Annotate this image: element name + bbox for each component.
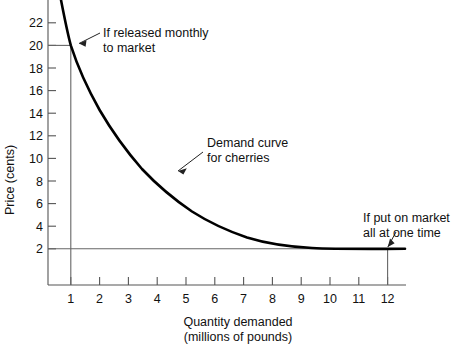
x-tick-label-5: 5	[183, 292, 190, 306]
y-tick-label-6: 6	[36, 197, 43, 211]
x-axis-title-line1: Quantity demanded	[183, 315, 292, 329]
y-axis-title: Price (cents)	[3, 145, 17, 215]
x-axis-title-line2: (millions of pounds)	[184, 330, 292, 344]
x-tick-label-4: 4	[154, 292, 161, 306]
y-tick-label-22: 22	[29, 16, 43, 30]
y-tick-label-4: 4	[36, 220, 43, 234]
x-tick-label-7: 7	[240, 292, 247, 306]
chart-svg: 22 20 18 16 14 12 10 8 6 4 2 Price (cent…	[0, 0, 458, 347]
x-tick-label-6: 6	[211, 292, 218, 306]
y-tick-label-16: 16	[29, 84, 43, 98]
x-tick-label-9: 9	[298, 292, 305, 306]
x-tick-label-10: 10	[323, 292, 337, 306]
x-tick-label-8: 8	[269, 292, 276, 306]
annotation-all-at-one-time-line1: If put on market	[363, 211, 450, 225]
y-axis-ticks	[48, 23, 56, 249]
x-axis-tick-labels: 1 2 3 4 5 6 7 8 9 10 11 12	[67, 292, 394, 306]
annotation-all-at-one-time-line2: all at one time	[363, 226, 441, 240]
arrowhead-icon	[178, 168, 187, 174]
y-tick-label-2: 2	[36, 242, 43, 256]
y-tick-label-14: 14	[29, 107, 43, 121]
demand-curve-chart: 22 20 18 16 14 12 10 8 6 4 2 Price (cent…	[0, 0, 458, 347]
annotation-demand-curve-line1: Demand curve	[207, 136, 288, 150]
x-tick-label-12: 12	[381, 292, 395, 306]
y-tick-label-20: 20	[29, 39, 43, 53]
x-tick-label-11: 11	[352, 292, 365, 306]
x-tick-label-1: 1	[67, 292, 74, 306]
x-tick-label-2: 2	[96, 292, 103, 306]
annotation-released-monthly-line1: If released monthly	[103, 26, 209, 40]
annotation-all-at-one-time: If put on market all at one time	[363, 211, 450, 247]
y-axis-tick-labels: 22 20 18 16 14 12 10 8 6 4 2	[29, 16, 43, 256]
y-tick-label-12: 12	[29, 129, 43, 143]
y-tick-label-8: 8	[36, 175, 43, 189]
x-axis-ticks	[71, 277, 388, 285]
annotation-demand-curve-line2: for cherries	[207, 151, 270, 165]
x-axis-title: Quantity demanded (millions of pounds)	[183, 315, 292, 344]
annotation-released-monthly: If released monthly to market	[79, 26, 209, 55]
y-tick-label-18: 18	[29, 62, 43, 76]
x-tick-label-3: 3	[125, 292, 132, 306]
annotation-released-monthly-line2: to market	[103, 41, 156, 55]
annotation-demand-curve-label: Demand curve for cherries	[178, 136, 288, 174]
y-tick-label-10: 10	[29, 152, 43, 166]
